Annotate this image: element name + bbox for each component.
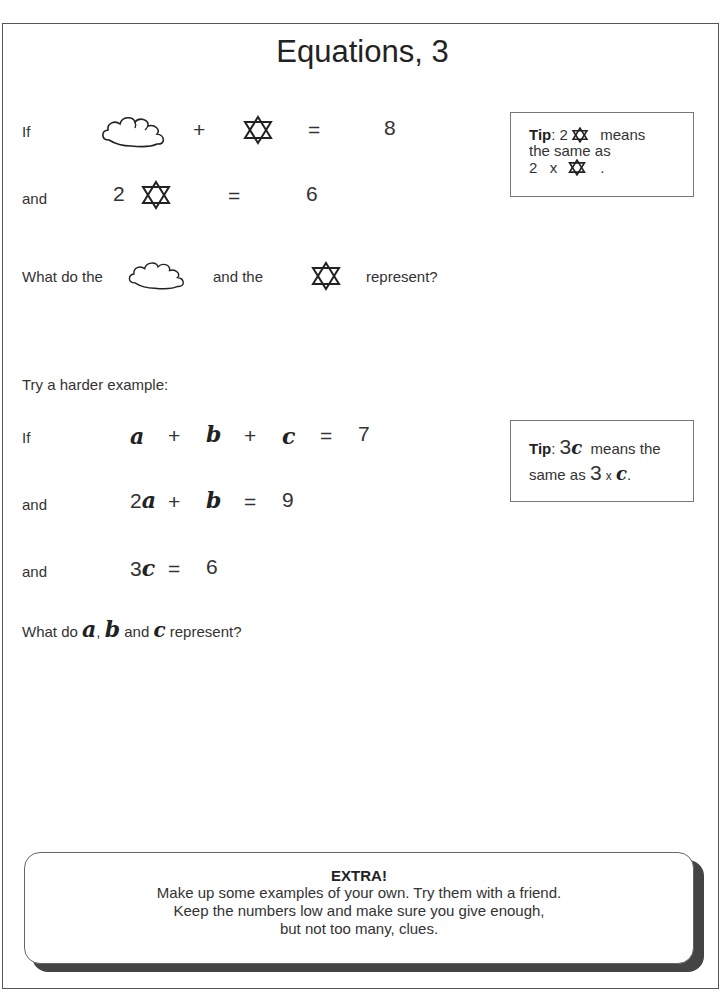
equals-sign: = — [308, 118, 320, 142]
question-1-middle: and the — [213, 268, 263, 285]
var-b: b — [206, 487, 221, 513]
eq4-prefix: and — [22, 496, 47, 513]
star-icon — [566, 159, 588, 176]
var-a: a — [130, 423, 144, 449]
question-1-end: represent? — [366, 268, 438, 285]
eq3-result: 7 — [358, 422, 370, 446]
extra-line: but not too many, clues. — [25, 920, 693, 938]
eq5-result: 6 — [206, 555, 218, 579]
plus-sign: + — [168, 490, 180, 514]
tip-means: means — [600, 127, 645, 143]
tip-line2: the same as — [529, 143, 645, 159]
eq4-lhs: 2a — [130, 487, 156, 513]
plus-sign: + — [168, 424, 180, 448]
equals-sign: = — [168, 557, 180, 581]
star-icon — [242, 115, 274, 145]
extra-line: Keep the numbers low and make sure you g… — [25, 902, 693, 920]
eq5-prefix: and — [22, 563, 47, 580]
tip-label: Tip — [529, 127, 551, 143]
eq3-prefix: If — [22, 429, 30, 446]
star-icon — [140, 180, 172, 210]
tip-box-symbols: Tip: 2 means the same as 2 x . — [510, 112, 694, 197]
eq4-result: 9 — [282, 488, 294, 512]
tip-coef: 2 — [560, 127, 568, 143]
eq2-prefix: and — [22, 190, 47, 207]
star-icon — [570, 127, 590, 143]
extra-title: EXTRA! — [25, 867, 693, 884]
eq5-lhs: 3c — [130, 555, 155, 581]
cloud-icon — [99, 112, 171, 148]
tip-label: Tip — [529, 440, 551, 457]
equals-sign: = — [228, 184, 240, 208]
page-title: Equations, 3 — [0, 34, 725, 70]
harder-intro: Try a harder example: — [22, 376, 168, 393]
eq1-result: 8 — [384, 116, 396, 140]
equals-sign: = — [320, 424, 332, 448]
eq2-result: 6 — [306, 182, 318, 206]
tip-box-variables: Tip: 3c means the same as 3 x c. — [510, 420, 694, 502]
eq1-prefix: If — [22, 123, 30, 140]
question-1-start: What do the — [22, 268, 103, 285]
extra-line: Make up some examples of your own. Try t… — [25, 884, 693, 902]
var-b: b — [206, 421, 221, 447]
plus-sign: + — [193, 118, 205, 142]
equals-sign: = — [244, 490, 256, 514]
star-icon — [310, 261, 342, 291]
plus-sign: + — [244, 424, 256, 448]
eq2-coefficient: 2 — [113, 182, 125, 206]
extra-box: EXTRA! Make up some examples of your own… — [24, 852, 694, 964]
question-2: What do a, b and c represent? — [22, 616, 242, 642]
cloud-icon — [122, 258, 194, 290]
var-c: c — [282, 423, 295, 449]
